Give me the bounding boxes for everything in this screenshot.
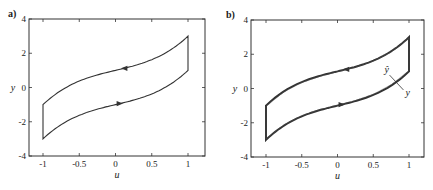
panel-a: -1-0.500.51-4-2024uya) — [8, 8, 205, 180]
y-tick-label: -4 — [241, 152, 249, 162]
panel-b: -1-0.500.51-4-2024uyb)ŷy — [226, 9, 424, 181]
y-tick-label: -2 — [19, 117, 27, 127]
axes-frame — [251, 20, 424, 157]
x-tick-label: 0.5 — [368, 160, 380, 170]
y-tick-label: -4 — [19, 151, 27, 161]
y-tick-label: 4 — [22, 14, 27, 24]
x-tick-label: 0.5 — [146, 159, 158, 169]
x-tick-label: 1 — [407, 160, 412, 170]
y-tick-label: -2 — [241, 118, 249, 128]
x-tick-label: -1 — [262, 160, 270, 170]
yhat-annotation: ŷ — [384, 64, 390, 75]
x-axis-label: u — [115, 169, 120, 180]
panel-label: b) — [226, 9, 235, 21]
x-tick-label: -0.5 — [72, 159, 87, 169]
y-tick-label: 2 — [244, 49, 249, 59]
hysteresis-loop-y-and-yhat — [266, 37, 409, 140]
y-tick-label: 0 — [244, 84, 249, 94]
y-axis-label: y — [10, 82, 16, 93]
arrow-left-icon — [121, 66, 127, 71]
x-tick-label: 0 — [335, 160, 340, 170]
panel-label: a) — [8, 8, 16, 20]
y-annotation: y — [404, 87, 410, 98]
x-tick-label: -0.5 — [295, 160, 310, 170]
x-tick-label: 0 — [113, 159, 118, 169]
figure: -1-0.500.51-4-2024uya)-1-0.500.51-4-2024… — [0, 0, 433, 190]
hysteresis-loop — [43, 36, 188, 139]
y-tick-label: 0 — [22, 83, 27, 93]
arrow-right-icon — [339, 102, 345, 107]
arrow-left-icon — [343, 67, 349, 72]
y-tick-label: 2 — [22, 48, 27, 58]
arrow-right-icon — [117, 101, 123, 106]
x-tick-label: 1 — [186, 159, 191, 169]
y-tick-label: 4 — [244, 15, 249, 25]
y-axis-label: y — [232, 83, 238, 94]
axes-frame — [29, 19, 205, 156]
x-axis-label: u — [335, 170, 340, 181]
x-tick-label: -1 — [39, 159, 47, 169]
